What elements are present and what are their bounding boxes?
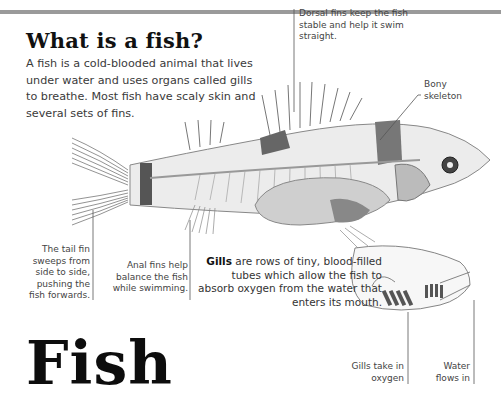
gills-keyword: Gills [206,255,232,267]
gills-take-oxygen-label: Gills take in oxygen [350,361,404,384]
water-flows-in-label: Water flows in [424,361,470,384]
tail-fin-icon [72,138,128,225]
bony-skeleton-label: Bony skeleton [424,79,474,102]
tail-fin-label: The tail fin sweeps from side to side, p… [20,244,90,302]
big-fish-title: Fish [26,330,173,396]
dorsal-fins-label: Dorsal fins keep the fish stable and hel… [299,8,421,43]
gills-description: Gills are rows of tiny, blood-filled tub… [196,255,382,309]
anal-fins-label: Anal fins help balance the fish while sw… [104,260,188,295]
